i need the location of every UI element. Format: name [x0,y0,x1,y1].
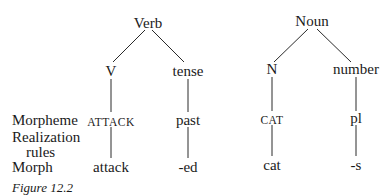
node-verb: Verb [134,16,162,31]
edge-noun-number [317,29,351,62]
figure-caption: Figure 12.2 [12,180,73,195]
label-morph: Morph [12,160,53,175]
label-realization: Realization [12,130,80,145]
morph-ed: -ed [178,160,197,175]
morpheme-past: past [176,113,200,128]
node-v: V [106,64,117,79]
node-number: number [333,62,379,77]
edge-verb-tense [152,30,184,62]
label-morpheme: Morpheme [12,113,78,128]
edge-noun-n [274,29,308,62]
node-tense: tense [173,64,204,79]
morph-cat: cat [263,158,280,173]
morph-attack: attack [93,160,129,175]
morph-s: -s [351,158,362,173]
morpheme-attack: ATTACK [87,115,134,130]
morpheme-pl: pl [350,111,362,126]
node-noun: Noun [295,14,328,29]
edge-verb-v [113,30,145,62]
label-rules: rules [26,145,55,160]
morpheme-cat: CAT [260,113,283,128]
node-n: N [267,62,278,77]
